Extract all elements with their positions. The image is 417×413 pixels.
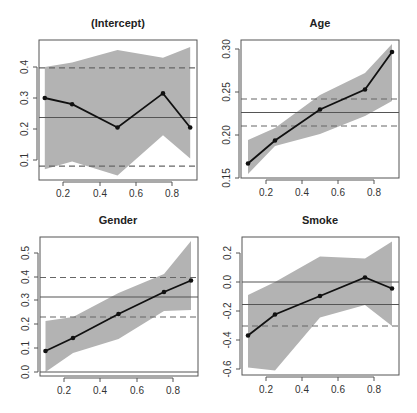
x-axis	[266, 377, 374, 381]
panel-smoke: Smoke 0.2 0.4 0.6 0.8	[222, 214, 399, 395]
x-tick-label: 0.4	[93, 188, 107, 199]
y-axis	[235, 49, 239, 178]
y-tick-label: 0.25	[221, 82, 232, 102]
y-tick-label: 0.3	[19, 91, 30, 105]
x-tick-label: 0.4	[93, 385, 107, 396]
panel-title: Smoke	[302, 214, 338, 226]
y-tick-label: 0.0	[222, 275, 233, 289]
panel-title: Gender	[99, 214, 138, 226]
x-axis	[63, 182, 172, 186]
y-tick-label: 0.3	[20, 293, 31, 307]
panel-title: (Intercept)	[91, 17, 145, 29]
y-tick-label: 0.0	[20, 365, 31, 379]
y-tick-label: 0.20	[221, 125, 232, 145]
x-tick-label: 0.8	[166, 385, 180, 396]
y-tick-label: -0.4	[222, 331, 233, 349]
y-tick-label: 0.30	[221, 39, 232, 59]
y-tick-label: 0.2	[222, 246, 233, 260]
x-tick-label: 0.8	[165, 188, 179, 199]
y-tick-label: 0.1	[20, 341, 31, 355]
x-tick-label: 0.2	[57, 385, 71, 396]
x-axis	[64, 378, 173, 382]
y-tick-label: 0.1	[19, 153, 30, 167]
panel-gender: Gender 0.2 0.4 0.6 0.8	[20, 214, 198, 396]
x-tick-label: 0.4	[295, 384, 309, 395]
confidence-band	[45, 47, 190, 176]
y-tick-label: 0.2	[19, 122, 30, 136]
y-tick-label: 0.4	[19, 60, 30, 74]
x-tick-label: 0.6	[331, 187, 345, 198]
panel-title: Age	[310, 17, 331, 29]
y-tick-label: 0.4	[20, 270, 31, 284]
y-tick-label: 0.2	[20, 317, 31, 331]
x-tick-label: 0.2	[56, 188, 70, 199]
quantile-regression-figure: (Intercept) 0.2 0.4 0.6 0.8	[0, 0, 417, 413]
x-tick-label: 0.2	[259, 187, 273, 198]
x-tick-label: 0.8	[367, 187, 381, 198]
x-tick-label: 0.4	[295, 187, 309, 198]
y-axis	[34, 253, 38, 372]
y-tick-label: -0.2	[222, 302, 233, 320]
y-axis	[33, 67, 37, 160]
y-tick-label: 0.15	[221, 168, 232, 188]
panel-age: Age 0.2 0.4 0.6 0.8	[221, 17, 399, 198]
x-tick-label: 0.8	[367, 384, 381, 395]
x-tick-label: 0.6	[130, 385, 144, 396]
x-tick-label: 0.2	[259, 384, 273, 395]
x-tick-label: 0.6	[129, 188, 143, 199]
y-tick-label: -0.6	[222, 360, 233, 378]
x-tick-label: 0.6	[331, 384, 345, 395]
panel-intercept: (Intercept) 0.2 0.4 0.6 0.8	[19, 17, 197, 199]
x-axis	[266, 180, 374, 184]
confidence-band	[46, 241, 192, 372]
y-tick-label: 0.5	[20, 246, 31, 260]
confidence-band	[248, 242, 392, 371]
y-axis	[236, 253, 240, 369]
